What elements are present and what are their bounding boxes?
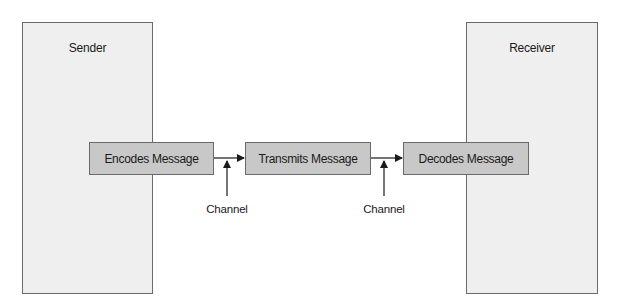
receiver-label: Receiver [467, 41, 597, 55]
decodes-message-label: Decodes Message [419, 152, 514, 166]
sender-label: Sender [23, 41, 152, 55]
transmits-message-box: Transmits Message [245, 142, 371, 175]
channel-label-2: Channel [344, 203, 424, 215]
encodes-message-box: Encodes Message [89, 142, 214, 175]
encodes-message-label: Encodes Message [104, 152, 198, 166]
transmits-message-label: Transmits Message [258, 152, 357, 166]
decodes-message-box: Decodes Message [403, 142, 529, 175]
channel-label-1: Channel [187, 203, 267, 215]
